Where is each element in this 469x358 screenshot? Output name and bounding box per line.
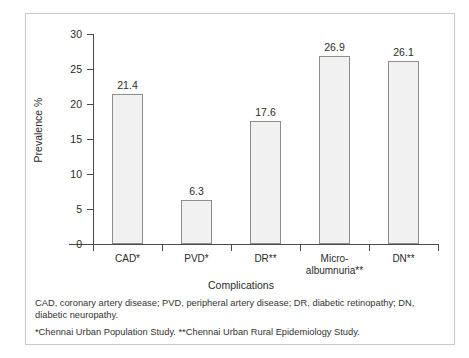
bar-value-label: 21.4	[103, 80, 153, 91]
x-category-label: Micro-albumnuria**	[295, 253, 375, 276]
y-tick-5	[87, 209, 94, 210]
category-label-line: CAD*	[88, 253, 168, 265]
x-category-label: PVD*	[157, 253, 237, 265]
y-tick-20	[87, 104, 94, 105]
footnotes-block: CAD, coronary artery disease; PVD, perip…	[35, 298, 447, 345]
x-category-label: DR**	[226, 253, 306, 265]
y-tick-label-0: 0	[42, 239, 82, 249]
x-axis-line	[69, 244, 438, 245]
y-tick-label-5: 5	[42, 204, 82, 214]
bar[interactable]	[181, 200, 212, 244]
y-axis-title: Prevalence %	[32, 55, 44, 205]
bar-value-label: 6.3	[172, 186, 222, 197]
chart-plot-area: 051015202530 21.4CAD*6.3PVD*17.6DR**26.9…	[26, 14, 456, 282]
bar[interactable]	[319, 56, 350, 244]
x-tick-boundary	[438, 244, 439, 251]
bar-value-label: 26.9	[310, 42, 360, 53]
y-tick-label-10: 10	[42, 169, 82, 179]
figure-panel: 051015202530 21.4CAD*6.3PVD*17.6DR**26.9…	[25, 13, 455, 345]
y-tick-label-25: 25	[42, 64, 82, 74]
y-tick-label-30: 30	[42, 29, 82, 39]
category-label-line: albumnuria**	[295, 265, 375, 277]
x-tick-boundary	[300, 244, 301, 251]
category-label-line: DR**	[226, 253, 306, 265]
x-tick-boundary	[162, 244, 163, 251]
x-tick-boundary	[231, 244, 232, 251]
y-tick-30	[87, 34, 94, 35]
x-category-label: CAD*	[88, 253, 168, 265]
y-tick-label-15: 15	[42, 134, 82, 144]
x-tick-boundary	[93, 244, 94, 251]
footnote-studies: *Chennai Urban Population Study. **Chenn…	[35, 327, 447, 339]
bar-value-label: 17.6	[241, 107, 291, 118]
bar[interactable]	[250, 121, 281, 244]
bar[interactable]	[388, 61, 419, 244]
footnote-abbreviations: CAD, coronary artery disease; PVD, perip…	[35, 298, 447, 321]
y-tick-25	[87, 69, 94, 70]
category-label-line: DN**	[364, 253, 444, 265]
x-tick-boundary	[369, 244, 370, 251]
x-axis-title: Complications	[26, 279, 456, 291]
bar-value-label: 26.1	[379, 47, 429, 58]
bar[interactable]	[112, 94, 143, 244]
category-label-line: Micro-	[295, 253, 375, 265]
x-category-label: DN**	[364, 253, 444, 265]
y-tick-10	[87, 174, 94, 175]
y-tick-label-20: 20	[42, 99, 82, 109]
category-label-line: PVD*	[157, 253, 237, 265]
y-tick-15	[87, 139, 94, 140]
